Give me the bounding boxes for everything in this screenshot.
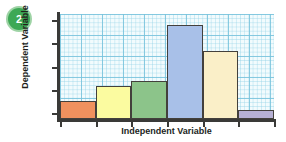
bar-yellow xyxy=(96,86,132,119)
y-axis-tick xyxy=(52,20,58,22)
x-axis-title: Independent Variable xyxy=(57,126,276,136)
bar-orange xyxy=(60,101,96,119)
y-axis-tick xyxy=(52,43,58,45)
bar-purple xyxy=(238,110,274,119)
bar-chart-figure: 2 Dependent Variable Independent Variabl… xyxy=(0,0,286,142)
bar-cream xyxy=(203,51,239,119)
y-axis-tick xyxy=(52,90,58,92)
y-axis-tick xyxy=(52,67,58,69)
bar-blue xyxy=(167,25,203,119)
bars-group xyxy=(60,14,274,119)
bar-green xyxy=(131,81,167,119)
y-axis-title: Dependent Variable xyxy=(20,2,30,92)
y-axis-tick xyxy=(52,113,58,115)
